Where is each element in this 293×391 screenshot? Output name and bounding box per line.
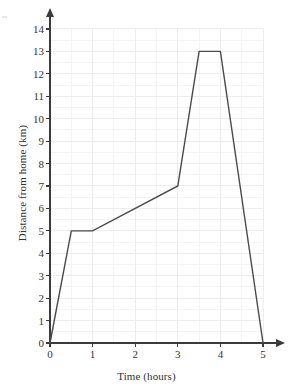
y-tick-label: 1 (20, 315, 44, 327)
x-axis-title: Time (hours) (0, 370, 293, 382)
x-tick-label-holder: 0 (35, 348, 65, 362)
x-tick-label: 3 (163, 348, 193, 360)
x-axis-arrowhead (276, 339, 285, 347)
x-tick-label-holder: 1 (78, 348, 108, 362)
x-tick-label-holder: 2 (120, 348, 150, 362)
x-tick-label-holder: 4 (205, 348, 235, 362)
x-tick-label: 5 (248, 348, 278, 360)
x-tick-label-holder: 3 (163, 348, 193, 362)
y-axis-title: Distance from home (km) (16, 73, 28, 293)
x-tick-label: 0 (35, 348, 65, 360)
x-tick-label: 2 (120, 348, 150, 360)
x-tick-label-holder: 5 (248, 348, 278, 362)
y-tick-label: 14 (20, 23, 44, 35)
plot-area (0, 0, 293, 391)
distance-time-chart: 01234567891011121314 012345 Distance fro… (0, 0, 293, 391)
tick-marks (46, 29, 263, 347)
x-tick-label: 4 (205, 348, 235, 360)
y-axis-arrowhead (46, 8, 54, 17)
y-tick-label: 2 (20, 292, 44, 304)
axis-lines (46, 8, 285, 347)
y-tick-label: 13 (20, 45, 44, 57)
x-tick-label: 1 (78, 348, 108, 360)
